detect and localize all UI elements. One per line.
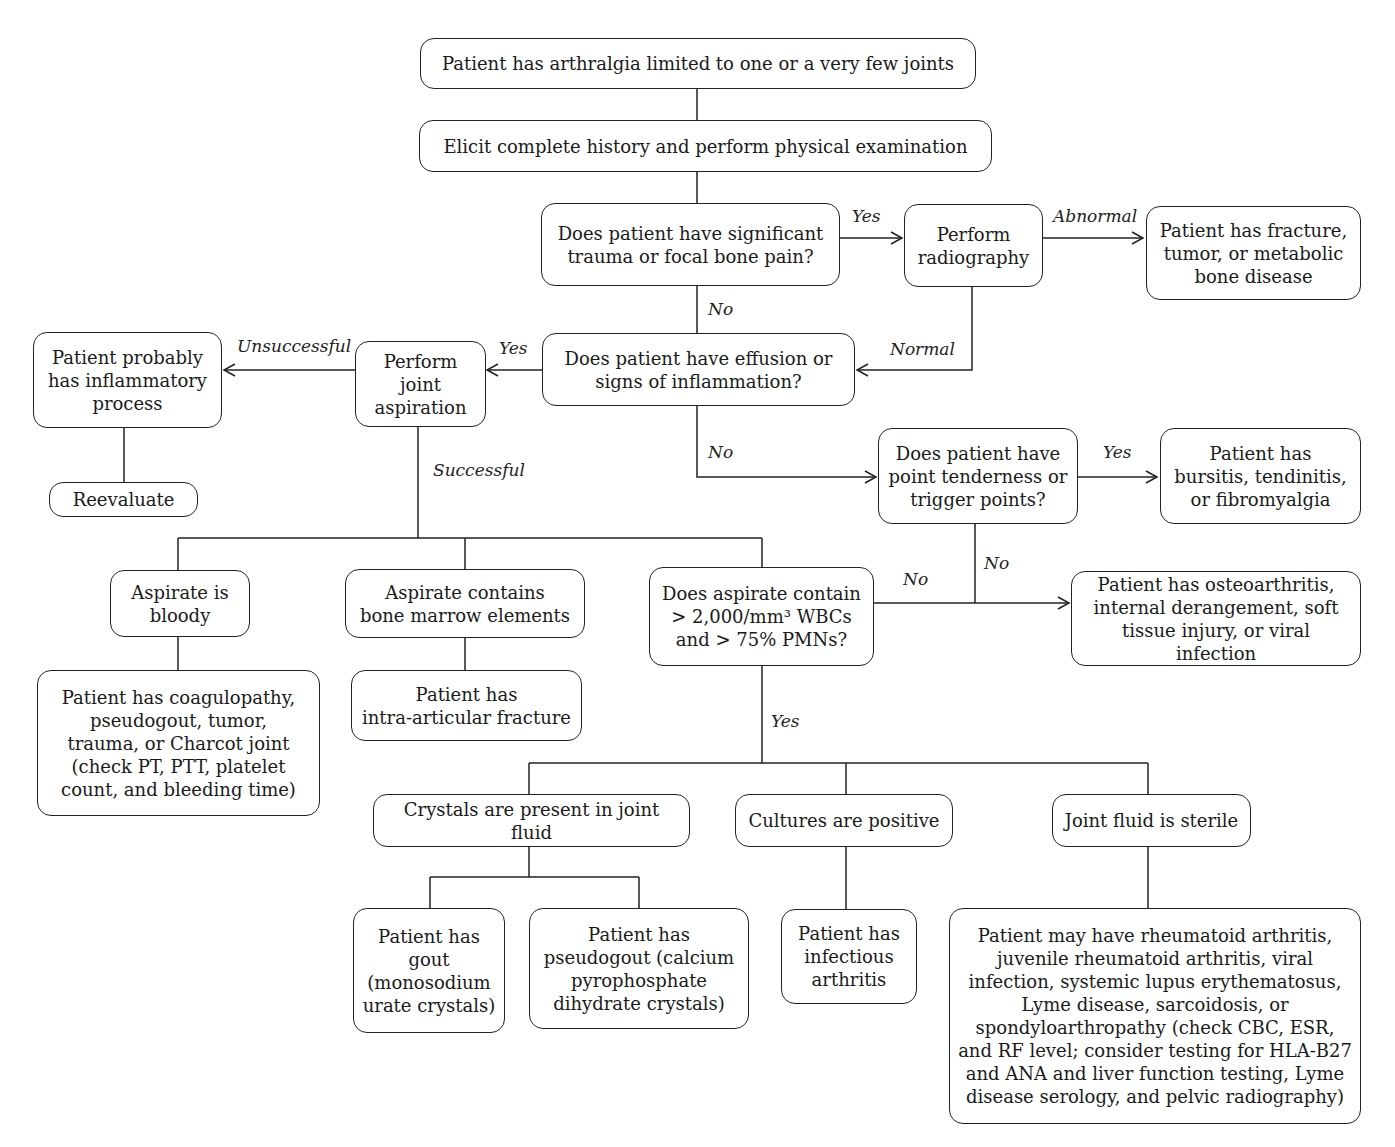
node-crystals: Crystals are present in joint fluid <box>373 794 690 847</box>
node-rheumatoid: Patient may have rheumatoid arthritis, j… <box>949 908 1361 1124</box>
label-effusion-yes: Yes <box>499 338 528 358</box>
node-inflammatory-process: Patient probably has inflammatory proces… <box>33 332 222 428</box>
node-bursitis: Patient has bursitis, tendinitis, or fib… <box>1160 428 1361 524</box>
label-wbc-no: No <box>903 569 928 589</box>
node-gout: Patient has gout (monosodium urate cryst… <box>353 908 505 1033</box>
node-bone-marrow: Aspirate contains bone marrow elements <box>345 569 585 638</box>
node-wbc-question: Does aspirate contain > 2,000/mm³ WBCs a… <box>649 567 874 666</box>
node-joint-aspiration: Perform joint aspiration <box>355 341 486 427</box>
label-trauma-yes: Yes <box>852 206 881 226</box>
node-intra-articular-fracture: Patient has intra-articular fracture <box>351 670 582 741</box>
node-osteoarthritis: Patient has osteoarthritis, internal der… <box>1071 571 1361 666</box>
node-infectious-arthritis: Patient has infectious arthritis <box>781 909 917 1004</box>
label-aspiration-successful: Successful <box>433 460 525 480</box>
label-trauma-no: No <box>708 299 733 319</box>
label-wbc-yes: Yes <box>771 711 800 731</box>
node-start: Patient has arthralgia limited to one or… <box>420 38 976 89</box>
node-effusion-question: Does patient have effusion or signs of i… <box>542 333 855 406</box>
node-radiography: Perform radiography <box>904 204 1043 287</box>
node-pseudogout: Patient has pseudogout (calcium pyrophos… <box>529 908 749 1029</box>
label-radiography-normal: Normal <box>890 339 955 359</box>
node-aspirate-bloody: Aspirate is bloody <box>110 570 250 637</box>
node-cultures-positive: Cultures are positive <box>735 794 953 847</box>
label-tenderness-yes: Yes <box>1103 442 1132 462</box>
node-tenderness-question: Does patient have point tenderness or tr… <box>878 428 1078 524</box>
label-radiography-abnormal: Abnormal <box>1053 206 1137 226</box>
node-fluid-sterile: Joint fluid is sterile <box>1052 794 1251 847</box>
node-reevaluate: Reevaluate <box>49 482 198 517</box>
label-aspiration-unsuccessful: Unsuccessful <box>237 336 351 356</box>
node-coagulopathy: Patient has coagulopathy, pseudogout, tu… <box>37 670 320 816</box>
node-trauma-question: Does patient have significant trauma or … <box>541 203 840 286</box>
flowchart: Patient has arthralgia limited to one or… <box>0 0 1395 1147</box>
node-fracture: Patient has fracture, tumor, or metaboli… <box>1146 206 1361 300</box>
label-effusion-no: No <box>708 442 733 462</box>
node-history: Elicit complete history and perform phys… <box>419 120 992 172</box>
label-tenderness-no: No <box>984 553 1009 573</box>
